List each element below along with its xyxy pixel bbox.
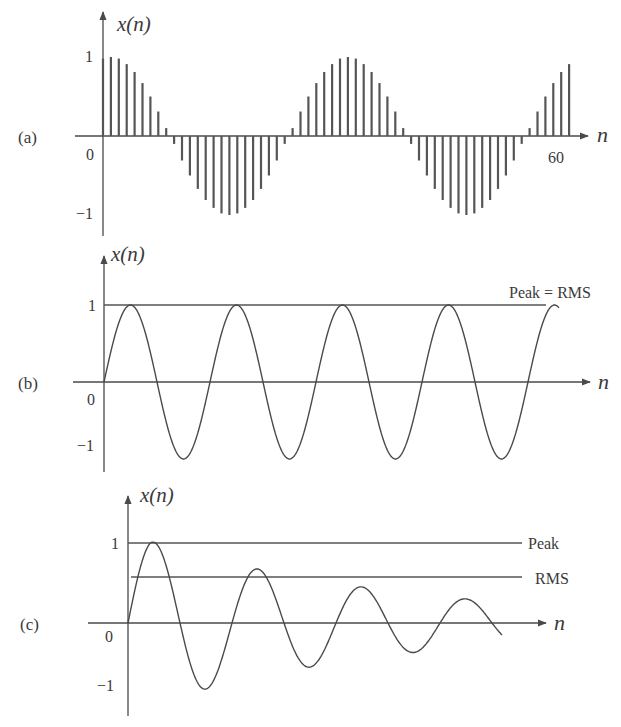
panel-a-tick-1: 1 bbox=[85, 48, 93, 65]
panel-b-label: (b) bbox=[18, 374, 38, 393]
panel-b: (b) x(n) n 1 0 −1 Peak = RMS bbox=[18, 242, 609, 472]
panel-b-tick-minus-1: −1 bbox=[77, 437, 94, 454]
panel-b-peak-rms-label: Peak = RMS bbox=[509, 284, 591, 301]
panel-c-tick-0: 0 bbox=[105, 628, 113, 645]
panel-b-tick-0: 0 bbox=[87, 391, 95, 408]
panel-c-label: (c) bbox=[20, 615, 39, 634]
panel-a-xlabel: n bbox=[597, 122, 608, 147]
panel-a-tick-60: 60 bbox=[548, 149, 564, 166]
panel-b-ylabel: x(n) bbox=[110, 242, 145, 266]
panel-a: (a) x(n) n 1 0 −1 60 bbox=[18, 12, 608, 236]
panel-c-ylabel: x(n) bbox=[139, 483, 174, 507]
panel-a-label: (a) bbox=[18, 128, 37, 147]
panel-c: (c) x(n) n 1 0 −1 Peak RMS bbox=[20, 483, 569, 716]
panel-c-decaying-sine-curve bbox=[128, 542, 502, 689]
panel-b-xlabel: n bbox=[598, 369, 609, 394]
panel-a-ylabel: x(n) bbox=[116, 12, 151, 36]
panel-c-tick-minus-1: −1 bbox=[97, 677, 114, 694]
panel-c-rms-label: RMS bbox=[535, 570, 569, 587]
panel-c-tick-1: 1 bbox=[111, 535, 119, 552]
panel-a-tick-minus-1: −1 bbox=[76, 205, 93, 222]
panel-b-tick-1: 1 bbox=[88, 297, 96, 314]
panel-a-ylabel-text: x(n) bbox=[116, 12, 151, 36]
panel-c-peak-label: Peak bbox=[528, 535, 559, 552]
figure: (a) x(n) n 1 0 −1 60 (b) x(n) n 1 0 −1 P… bbox=[0, 0, 621, 727]
panel-a-tick-0: 0 bbox=[86, 146, 94, 163]
panel-c-xlabel: n bbox=[554, 610, 565, 635]
